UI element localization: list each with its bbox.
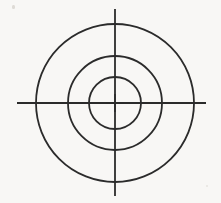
concentric-circles-diagram (0, 0, 221, 203)
figure-container (0, 0, 221, 203)
figure-background (0, 0, 221, 203)
paper-speck (12, 5, 15, 9)
paper-speck (206, 185, 208, 187)
